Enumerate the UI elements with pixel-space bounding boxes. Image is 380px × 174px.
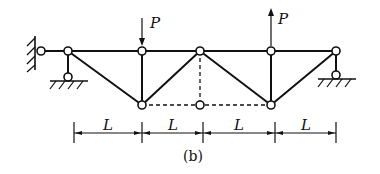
- dimension-label-4: L: [300, 116, 311, 134]
- load-up-arrow: [268, 8, 274, 46]
- diagonal-2: [142, 51, 200, 105]
- load-down-arrow: [139, 18, 145, 46]
- diagonal-1: [68, 51, 142, 105]
- wall-support: [27, 36, 35, 72]
- load-label-up: P: [277, 10, 289, 28]
- dimension-label-1: L: [102, 116, 113, 134]
- nodes: [37, 47, 340, 109]
- dimension-line: [74, 122, 336, 143]
- load-label-down: P: [149, 14, 161, 32]
- truss-diagram: P P L L L L (b): [0, 0, 380, 174]
- dimension-label-2: L: [167, 116, 178, 134]
- diagonal-4: [271, 51, 336, 105]
- diagonal-3: [200, 51, 271, 105]
- dimension-label-3: L: [233, 116, 244, 134]
- left-roller-support: [50, 51, 88, 89]
- right-roller-support: [318, 51, 356, 87]
- figure-caption: (b): [183, 148, 203, 164]
